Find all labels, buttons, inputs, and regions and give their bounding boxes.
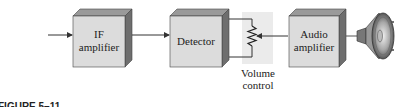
volume-control-label-line1: Volume: [241, 67, 275, 79]
volume-control: Volume control: [229, 12, 288, 91]
audio-amplifier-label-line1: Audio: [300, 28, 328, 40]
figure-caption: FIGURE 5–11: [0, 101, 61, 107]
speaker-icon: [357, 13, 394, 59]
if-amplifier-label-line2: amplifier: [79, 41, 120, 53]
if-amplifier-block: IF amplifier: [73, 9, 132, 67]
if-amplifier-label-line1: IF: [94, 28, 104, 40]
block-diagram: IF amplifier Detector Volume control Aud…: [0, 0, 404, 107]
detector-label: Detector: [177, 35, 215, 47]
volume-control-background: [242, 12, 273, 64]
volume-control-label-line2: control: [242, 79, 273, 91]
detector-block: Detector: [170, 9, 229, 67]
audio-amplifier-block: Audio amplifier: [289, 9, 346, 67]
audio-amplifier-label-line2: amplifier: [294, 41, 335, 53]
